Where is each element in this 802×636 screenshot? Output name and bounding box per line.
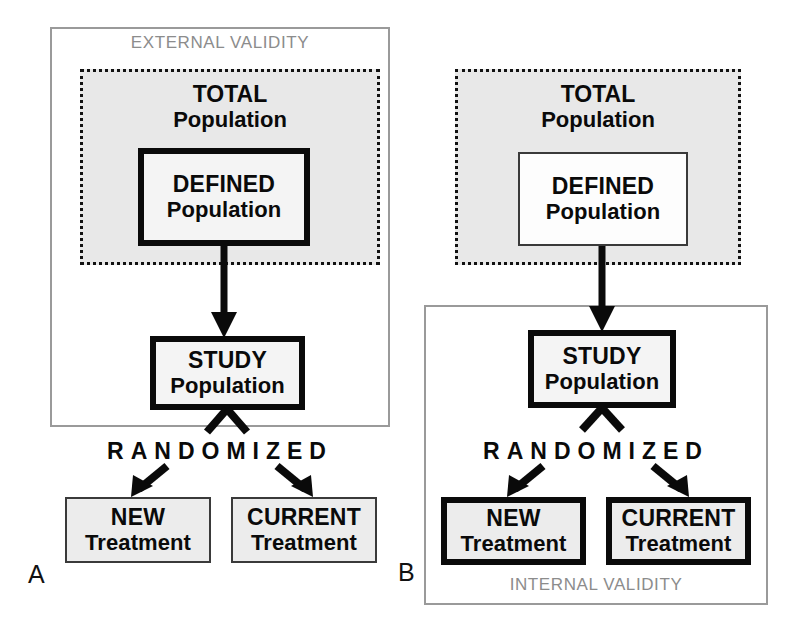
panel-b-study-line2: Population: [545, 370, 660, 395]
panel-a-total-line1: TOTAL: [80, 82, 380, 108]
panel-a-randomized-label: RANDOMIZED: [50, 438, 390, 465]
panel-b-randomized-label: RANDOMIZED: [424, 438, 768, 465]
panel-a-letter: A: [28, 560, 45, 589]
panel-a-new-treatment-line2: Treatment: [85, 531, 191, 556]
panel-a-defined-line1: DEFINED: [173, 172, 275, 198]
panel-b-defined-population-box: DEFINED Population: [518, 152, 688, 246]
panel-a-arrow-to-new-treatment: [131, 466, 167, 497]
panel-b-letter: B: [398, 558, 415, 587]
panel-b-study-population-box: STUDY Population: [528, 330, 676, 408]
panel-b-validity-label: INTERNAL VALIDITY: [424, 575, 768, 595]
panel-b-defined-line2: Population: [546, 200, 661, 225]
panel-a-total-line2: Population: [80, 108, 380, 133]
panel-a-study-line1: STUDY: [188, 348, 267, 374]
panel-b-current-treatment-line1: CURRENT: [622, 506, 736, 532]
panel-b-new-treatment-line2: Treatment: [460, 532, 566, 557]
panel-b-new-treatment-line1: NEW: [486, 506, 540, 532]
panel-a-new-treatment-box: NEW Treatment: [65, 497, 211, 563]
panel-b-total-line1: TOTAL: [455, 82, 741, 108]
panel-a-current-treatment-box: CURRENT Treatment: [231, 497, 377, 563]
panel-b-study-line1: STUDY: [563, 344, 642, 370]
panel-a-study-line2: Population: [170, 374, 285, 399]
panel-b-current-treatment-line2: Treatment: [625, 532, 731, 557]
panel-b-total-population-caption: TOTAL Population: [455, 82, 741, 132]
panel-b-total-line2: Population: [455, 108, 741, 133]
panel-a-new-treatment-line1: NEW: [111, 505, 165, 531]
panel-b-current-treatment-box: CURRENT Treatment: [606, 497, 751, 565]
panel-a-defined-line2: Population: [167, 198, 282, 223]
panel-a-arrow-to-current-treatment: [277, 466, 313, 497]
figure-canvas: EXTERNAL VALIDITY TOTAL Population DEFIN…: [0, 0, 802, 636]
panel-b-defined-line1: DEFINED: [552, 174, 654, 200]
panel-a-study-population-box: STUDY Population: [150, 336, 305, 410]
panel-a-validity-label: EXTERNAL VALIDITY: [50, 33, 390, 53]
panel-a-current-treatment-line2: Treatment: [251, 531, 357, 556]
panel-a-current-treatment-line1: CURRENT: [247, 505, 361, 531]
panel-a-defined-population-box: DEFINED Population: [138, 148, 310, 246]
panel-b-new-treatment-box: NEW Treatment: [441, 497, 586, 565]
panel-a-total-population-caption: TOTAL Population: [80, 82, 380, 132]
